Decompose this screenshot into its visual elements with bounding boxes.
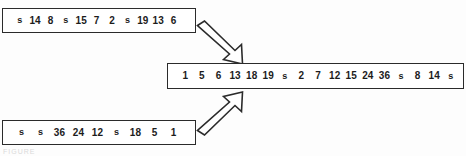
run-cell: 15	[74, 16, 89, 26]
run-cell: s	[443, 72, 460, 81]
run-cell: 24	[360, 71, 377, 81]
run-cell: 5	[145, 128, 164, 138]
run-cell: 18	[126, 128, 145, 138]
run-cell: s	[12, 16, 27, 25]
run-cell: 19	[260, 71, 277, 81]
run-cell: s	[31, 128, 50, 137]
run-cell: 13	[227, 71, 244, 81]
run-cell: 36	[50, 128, 69, 138]
run-cell: 14	[426, 71, 443, 81]
arrow-up-right-icon	[196, 90, 248, 136]
run-cell: 6	[166, 16, 181, 26]
run-cell: 18	[243, 71, 260, 81]
run-cell: s	[277, 72, 294, 81]
run-cell: 2	[293, 71, 310, 81]
run-cell: s	[120, 16, 135, 25]
run-cell: 5	[194, 71, 211, 81]
run-cell: 13	[151, 16, 166, 26]
run-cell: 7	[310, 71, 327, 81]
run-cell: 8	[409, 71, 426, 81]
run-cell: 1	[164, 128, 183, 138]
run-cell: 2	[104, 16, 119, 26]
run-cell: 1	[177, 71, 194, 81]
run-cell: 36	[376, 71, 393, 81]
run-cell: s	[12, 128, 31, 137]
run-cell: 19	[135, 16, 150, 26]
run-cell: s	[58, 16, 73, 25]
top-input-run-box: s 14 8 s 15 7 2 s 19 13 6	[2, 8, 196, 33]
run-cell: 7	[89, 16, 104, 26]
arrow-down-right-icon	[196, 20, 248, 66]
run-cell: 12	[88, 128, 107, 138]
run-cell: s	[393, 72, 410, 81]
bottom-input-run-box: s s 36 24 12 s 18 5 1	[2, 120, 196, 145]
diagram-canvas: s 14 8 s 15 7 2 s 19 13 6 1 5 6 13 18 19…	[0, 0, 466, 156]
run-cell: 8	[43, 16, 58, 26]
run-cell: 24	[69, 128, 88, 138]
merged-output-run-box: 1 5 6 13 18 19 s 2 7 12 15 24 36 s 8 14 …	[167, 63, 464, 89]
caption-sliver: FIGURE	[3, 148, 35, 155]
run-cell: 12	[326, 71, 343, 81]
run-cell: 6	[210, 71, 227, 81]
run-cell: s	[107, 128, 126, 137]
run-cell: 14	[27, 16, 42, 26]
run-cell: 15	[343, 71, 360, 81]
